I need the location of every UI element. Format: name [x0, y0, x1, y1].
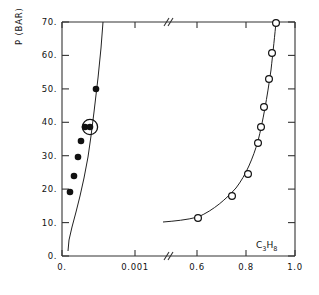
- species-annotation-label: C3H8: [256, 240, 277, 253]
- x-axis-tick-labels: 0. 0.001 0.6 0.8 1.0: [57, 262, 302, 272]
- data-point-marker: [255, 140, 262, 147]
- species-h: H: [266, 240, 273, 250]
- series-line-liquid: [163, 22, 276, 222]
- y-tick-label: 20.: [42, 184, 57, 194]
- species-sub-8: 8: [273, 245, 277, 253]
- data-point-marker: [261, 104, 268, 111]
- series-line-vapor: [68, 22, 103, 251]
- x-tick-label: 1.0: [287, 262, 302, 272]
- y-tick-label: 30.: [42, 151, 57, 161]
- series-markers-liquid: [195, 20, 280, 222]
- data-point-marker: [78, 138, 85, 145]
- y-tick-label: 60.: [42, 50, 57, 60]
- figure-container: 0. 10. 20. 30. 40. 50. 60. 70. 0. 0.001 …: [0, 0, 319, 295]
- data-point-marker: [258, 124, 265, 131]
- x-tick-label: 0.6: [189, 262, 204, 272]
- data-point-marker: [71, 173, 78, 180]
- y-tick-label: 40.: [42, 117, 57, 127]
- data-point-marker: [67, 189, 74, 196]
- y-tick-label: 0.: [48, 251, 57, 261]
- data-point-marker: [266, 76, 273, 83]
- data-point-marker: [195, 215, 202, 222]
- data-point-marker: [273, 20, 280, 27]
- y-tick-label: 50.: [42, 84, 57, 94]
- data-point-marker: [229, 193, 236, 200]
- x-tick-label: 0.8: [238, 262, 253, 272]
- phase-diagram-chart: 0. 10. 20. 30. 40. 50. 60. 70. 0. 0.001 …: [0, 0, 319, 295]
- x-tick-label: 0.: [57, 262, 66, 272]
- data-point-marker: [245, 171, 252, 178]
- y-tick-label: 10.: [42, 218, 57, 228]
- x-tick-label: 0.001: [121, 262, 148, 272]
- series-markers-vapor: [67, 86, 100, 196]
- data-point-marker: [87, 124, 94, 131]
- data-point-marker: [75, 154, 82, 161]
- y-axis-tick-labels: 0. 10. 20. 30. 40. 50. 60. 70.: [42, 17, 57, 261]
- data-point-marker: [93, 86, 100, 93]
- y-tick-label: 70.: [42, 17, 57, 27]
- data-point-marker: [269, 50, 276, 57]
- y-axis-title: P (BAR): [14, 7, 24, 45]
- series-liquid-phase-composition: [163, 20, 279, 222]
- series-vapor-phase-composition: [67, 22, 103, 251]
